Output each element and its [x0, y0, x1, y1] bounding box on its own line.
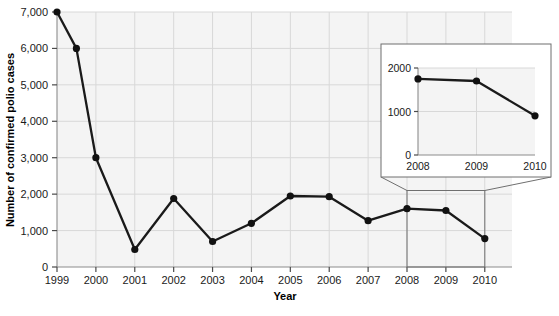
data-point: [403, 205, 410, 212]
inset-x-tick-label: 2010: [523, 160, 547, 172]
inset-y-tick-label: 1000: [388, 106, 412, 118]
data-point: [442, 207, 449, 214]
x-tick-label: 2005: [278, 274, 302, 286]
y-axis-title: Number of confirmed polio cases: [4, 53, 16, 227]
y-tick-label: 5,000: [20, 79, 48, 91]
y-tick-label: 6,000: [20, 42, 48, 54]
x-axis-ticks: [57, 267, 485, 272]
x-tick-label: 2007: [356, 274, 380, 286]
y-tick-label: 1,000: [20, 225, 48, 237]
x-axis-tick-labels: 1999200020012002200320042005200620072008…: [45, 274, 497, 286]
inset-data-point: [414, 75, 421, 82]
inset-y-tick-label: 2000: [388, 62, 412, 74]
data-point: [73, 45, 80, 52]
x-tick-label: 2004: [239, 274, 263, 286]
y-tick-label: 7,000: [20, 6, 48, 18]
y-tick-label: 3,000: [20, 152, 48, 164]
data-point: [481, 235, 488, 242]
data-point: [248, 220, 255, 227]
y-axis-tick-labels: 01,0002,0003,0004,0005,0006,0007,000: [20, 6, 48, 273]
y-axis-ticks: [52, 12, 57, 267]
x-tick-label: 2010: [473, 274, 497, 286]
data-point: [131, 246, 138, 253]
chart-svg: 01,0002,0003,0004,0005,0006,0007,000 199…: [0, 0, 559, 316]
x-tick-label: 2001: [123, 274, 147, 286]
data-point: [209, 238, 216, 245]
x-tick-label: 2000: [84, 274, 108, 286]
inset-x-axis-tick-labels: 200820092010: [406, 160, 547, 172]
polio-cases-line-chart: 01,0002,0003,0004,0005,0006,0007,000 199…: [0, 0, 559, 316]
data-point: [365, 217, 372, 224]
x-tick-label: 2008: [395, 274, 419, 286]
data-point: [92, 154, 99, 161]
x-tick-label: 2009: [434, 274, 458, 286]
data-point: [326, 193, 333, 200]
inset-data-point: [473, 77, 480, 84]
x-tick-label: 2003: [200, 274, 224, 286]
inset-x-tick-label: 2008: [406, 160, 430, 172]
x-tick-label: 2002: [161, 274, 185, 286]
x-axis-title: Year: [273, 290, 297, 302]
data-point: [170, 195, 177, 202]
x-tick-label: 2006: [317, 274, 341, 286]
data-point: [287, 192, 294, 199]
data-point: [53, 8, 60, 15]
y-tick-label: 0: [42, 261, 48, 273]
x-tick-label: 1999: [45, 274, 69, 286]
inset-x-tick-label: 2009: [465, 160, 489, 172]
y-tick-label: 4,000: [20, 115, 48, 127]
y-tick-label: 2,000: [20, 188, 48, 200]
inset-data-point: [531, 112, 538, 119]
